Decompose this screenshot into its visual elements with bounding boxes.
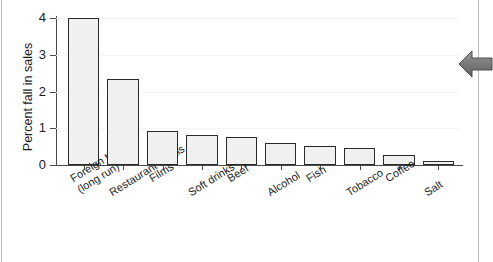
x-tick-mark [202, 166, 203, 170]
x-tick-label-line: Salt [422, 178, 444, 198]
bar [147, 131, 179, 165]
x-tick-label: Fish [304, 163, 328, 185]
bar [68, 18, 100, 165]
x-tick-label: Tobacco [344, 166, 385, 198]
x-tick-mark [281, 166, 282, 170]
x-tick-label-line: Alcohol [265, 169, 302, 198]
x-tick-mark [438, 166, 439, 170]
x-tick-label: Salt [422, 178, 445, 199]
chart-screenshot: Percent fall in sales 01234 Foreign trav… [0, 0, 493, 262]
bar [304, 146, 336, 165]
bar [186, 135, 218, 165]
bar [107, 79, 139, 165]
bar [265, 143, 297, 165]
bar [423, 161, 455, 165]
x-tick-label-line: Fish [304, 163, 328, 184]
bar [226, 137, 258, 165]
x-tick-mark [360, 166, 361, 170]
bars-layer: Foreign travel(long run)Restaurant meals… [0, 0, 493, 262]
x-tick-mark [123, 166, 124, 170]
x-tick-label: Alcohol [265, 169, 302, 199]
bar [344, 148, 376, 165]
left-arrow-icon [458, 47, 493, 81]
x-tick-label-line: Tobacco [344, 166, 385, 198]
